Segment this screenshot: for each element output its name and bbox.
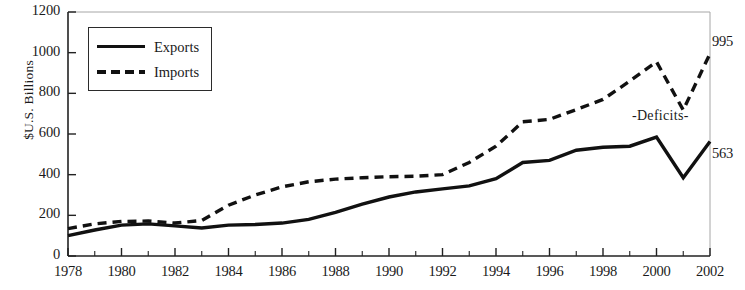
- trade-balance-line-chart: $U.S. Billions 020040060080010001200 197…: [0, 0, 745, 290]
- legend-item-exports: Exports: [97, 36, 199, 58]
- annotation-exports-end: 563: [712, 145, 733, 162]
- legend-item-imports: Imports: [97, 61, 199, 83]
- legend-label-exports: Exports: [154, 40, 199, 55]
- annotation-deficits: -Deficits-: [632, 108, 689, 124]
- x-axis-ticks: [68, 248, 710, 256]
- solid-line-icon: [97, 41, 145, 53]
- chart-legend: Exports Imports: [88, 27, 212, 91]
- y-axis-ticks: [68, 12, 76, 256]
- dashed-line-icon: [97, 66, 145, 78]
- annotation-imports-end: 995: [712, 33, 733, 50]
- legend-label-imports: Imports: [154, 65, 199, 80]
